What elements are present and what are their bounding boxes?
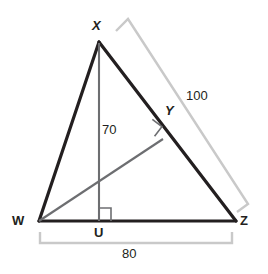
measure-label-wz: 80 [122,247,136,260]
measure-bracket-wz [40,232,232,243]
vertex-label-w: W [12,214,24,227]
geometry-diagram: X Y W U Z 70 100 80 [0,0,268,274]
measure-label-xz: 100 [186,89,208,102]
vertex-label-z: Z [240,214,248,227]
vertex-label-u: U [94,226,103,239]
segment-xz [99,42,236,221]
right-angle-mark-u [99,208,111,221]
measure-bracket-xz [116,19,248,212]
segment-wx [39,42,99,221]
measure-label-xu: 70 [102,123,116,136]
geometry-canvas [0,0,268,274]
vertex-label-y: Y [165,104,174,117]
vertex-label-x: X [92,19,101,32]
